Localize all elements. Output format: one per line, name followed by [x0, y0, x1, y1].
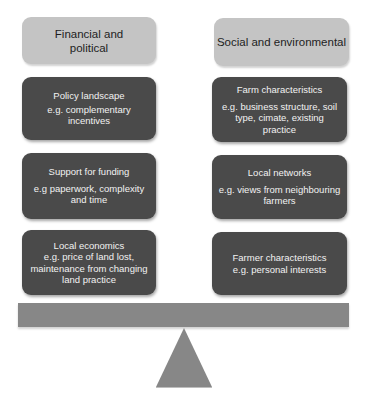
item-title: Policy landscape	[53, 90, 124, 102]
right-item-farmer-characteristics: Farmer characteristics e.g. personal int…	[212, 232, 347, 295]
item-title: Local networks	[248, 167, 311, 179]
fulcrum-triangle-icon	[156, 328, 212, 388]
item-title: Local economics	[54, 240, 125, 252]
item-detail: e.g. price of land lost, maintenance fro…	[30, 251, 147, 286]
left-item-support-for-funding: Support for funding e.g paperwork, compl…	[22, 153, 156, 219]
right-item-farm-characteristics: Farm characteristics e.g. business struc…	[212, 77, 347, 142]
item-title: Farmer characteristics	[233, 252, 327, 264]
left-item-local-economics: Local economics e.g. price of land lost,…	[22, 230, 156, 295]
item-detail: e.g. business structure, soil type, cima…	[218, 101, 341, 136]
right-item-local-networks: Local networks e.g. views from neighbour…	[212, 155, 347, 219]
item-detail: e.g. views from neighbouring farmers	[219, 184, 340, 207]
left-header-financial-political: Financial and political	[22, 17, 156, 64]
item-title: Support for funding	[49, 166, 130, 178]
left-item-policy-landscape: Policy landscape e.g. complementary ince…	[22, 77, 156, 140]
balance-beam	[18, 303, 349, 327]
item-detail: e.g. complementary incentives	[28, 104, 150, 127]
item-title: Farm characteristics	[237, 84, 323, 96]
item-detail: e.g paperwork, complexity and time	[34, 183, 144, 206]
right-header-social-environmental: Social and environmental	[214, 18, 349, 66]
item-detail: e.g. personal interests	[233, 264, 326, 276]
